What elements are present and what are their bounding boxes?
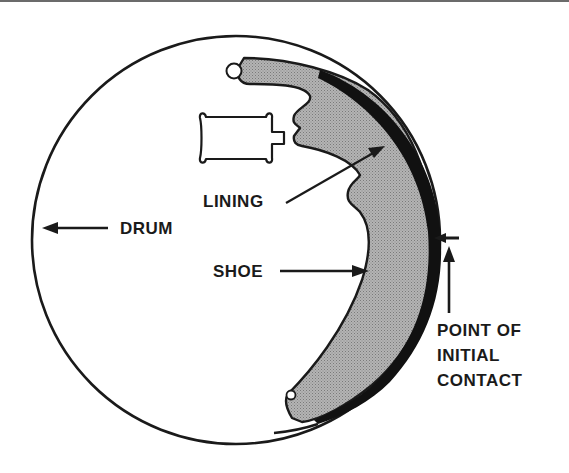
label-contact-line1: POINT OF — [437, 321, 521, 340]
wheel-cylinder — [200, 113, 284, 162]
anchor-pin-top — [227, 64, 242, 79]
drum-arrowhead — [42, 222, 58, 234]
label-lining: LINING — [203, 192, 264, 211]
label-shoe: SHOE — [213, 262, 263, 281]
brake-shoe — [238, 58, 435, 422]
pivot-pin-bottom — [287, 391, 296, 400]
label-contact-line3: CONTACT — [437, 371, 522, 390]
contact-vertical-arrowhead — [443, 246, 455, 262]
label-contact-line2: INITIAL — [437, 346, 500, 365]
label-drum: DRUM — [120, 219, 173, 238]
brake-diagram: LINING DRUM SHOE POINT OF INITIAL CONTAC… — [0, 0, 569, 473]
